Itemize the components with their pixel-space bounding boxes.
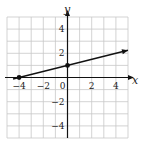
y-tick-label: −2 [51,97,64,107]
series-line [13,50,128,79]
y-tick-label: −4 [51,121,65,131]
y-tick-label: 4 [59,24,65,34]
x-tick-label: −4 [12,81,26,91]
x-tick-label: 4 [113,81,119,91]
x-tick-label: 0 [60,81,66,91]
x-tick-label: 2 [89,81,95,91]
x-tick-label: −2 [37,81,50,91]
y-axis-label: y [63,3,71,16]
data-point [65,63,70,68]
x-axis-label: x [132,74,139,87]
coordinate-plane: −4−202442−2−4 x y [0,0,143,146]
y-tick-label: 2 [59,48,65,58]
data-point [17,75,22,80]
